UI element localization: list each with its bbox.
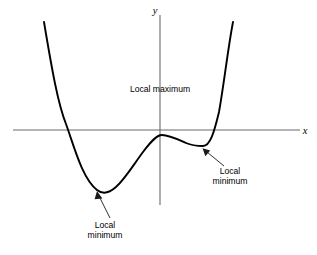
right-local-minimum-arrowhead <box>203 148 211 156</box>
local-maximum-label: Local maximum <box>130 84 190 94</box>
graph-svg: x y Local maximum Local minimum Local mi… <box>0 0 317 255</box>
right-local-minimum-leader-line <box>207 152 224 166</box>
left-local-minimum-label-line1: Local <box>95 220 116 230</box>
left-local-minimum-leader-line <box>99 196 110 218</box>
y-axis-label: y <box>152 5 158 16</box>
function-graph-figure: x y Local maximum Local minimum Local mi… <box>0 0 317 255</box>
function-curve <box>44 22 233 193</box>
right-local-minimum-label-line1: Local <box>220 166 241 176</box>
left-local-minimum-annotation: Local minimum <box>88 191 123 240</box>
right-local-minimum-label-line2: minimum <box>213 176 248 186</box>
x-axis-label: x <box>302 125 308 136</box>
left-local-minimum-label-line2: minimum <box>88 230 123 240</box>
right-local-minimum-annotation: Local minimum <box>203 148 248 186</box>
